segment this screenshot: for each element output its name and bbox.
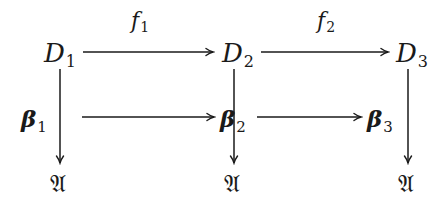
node-beta3-symbol: β xyxy=(367,105,382,132)
node-A3: 𝔄 xyxy=(398,172,414,196)
node-beta3-subscript: 3 xyxy=(383,118,393,136)
node-beta2-subscript: 2 xyxy=(236,118,246,136)
node-D2-symbol: D xyxy=(222,38,243,68)
node-A2-symbol: 𝔄 xyxy=(224,170,240,198)
node-beta2: β2 xyxy=(220,107,246,135)
diagram-arrows xyxy=(0,0,446,204)
node-beta1-subscript: 1 xyxy=(37,118,47,136)
node-beta1: β1 xyxy=(21,107,47,135)
node-A3-symbol: 𝔄 xyxy=(398,170,414,198)
node-beta1-symbol: β xyxy=(21,105,36,132)
node-D2-subscript: 2 xyxy=(244,52,254,71)
node-D3-symbol: D xyxy=(396,38,417,68)
node-beta3: β3 xyxy=(367,107,393,135)
node-D1-symbol: D xyxy=(44,38,65,68)
commutative-diagram: D1 D2 D3 f1 f2 β1 β2 β3 𝔄 𝔄 𝔄 xyxy=(0,0,446,204)
node-D2: D2 xyxy=(222,40,254,70)
node-A2: 𝔄 xyxy=(224,172,240,196)
edge-label-f2: f2 xyxy=(317,10,335,34)
node-A1-symbol: 𝔄 xyxy=(50,170,66,198)
edge-label-f1-symbol: f xyxy=(131,8,139,33)
edge-label-f1: f1 xyxy=(131,10,149,34)
node-D3-subscript: 3 xyxy=(418,52,428,71)
node-A1: 𝔄 xyxy=(50,172,66,196)
node-D3: D3 xyxy=(396,40,428,70)
edge-label-f2-subscript: 2 xyxy=(326,19,335,35)
node-D1: D1 xyxy=(44,40,76,70)
node-beta2-symbol: β xyxy=(220,105,235,132)
node-D1-subscript: 1 xyxy=(66,52,76,71)
edge-label-f1-subscript: 1 xyxy=(140,19,149,35)
edge-label-f2-symbol: f xyxy=(317,8,325,33)
